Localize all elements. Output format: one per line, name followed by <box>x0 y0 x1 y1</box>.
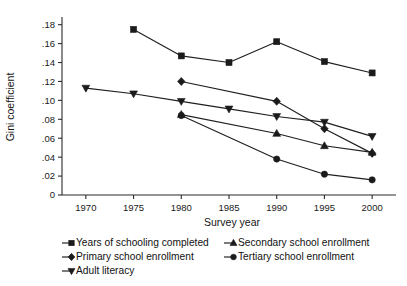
x-axis-title: Survey year <box>204 216 261 228</box>
y-axis-tick-label: .02 <box>42 170 55 181</box>
legend-entry-label: Years of schooling completed <box>76 237 209 248</box>
x-axis: 1970197519801985199019952000 <box>62 195 396 213</box>
legend-entry-1: Secondary school enrollment <box>224 237 370 248</box>
legend-entry-label: Secondary school enrollment <box>238 237 370 248</box>
x-axis-tick-label: 1985 <box>218 202 239 213</box>
data-series-group <box>82 26 376 183</box>
x-axis-tick-label: 1995 <box>314 202 335 213</box>
legend-entry-0: Years of schooling completed <box>62 237 209 248</box>
marker-square <box>226 60 232 66</box>
marker-square <box>321 59 327 65</box>
legend-entry-4: Adult literacy <box>62 265 135 276</box>
y-axis-tick-label: .06 <box>42 133 55 144</box>
legend-entry-3: Tertiary school enrollment <box>224 251 354 262</box>
y-axis-tick-label: .18 <box>42 19 55 30</box>
marker-circle <box>274 156 280 162</box>
marker-circle <box>321 171 327 177</box>
x-axis-tick-label: 1970 <box>75 202 96 213</box>
chart-canvas: 0.02.04.06.08.10.12.14.16.18 19701975198… <box>0 0 407 286</box>
y-axis-tick-label: .16 <box>42 38 55 49</box>
y-axis-tick-label: .08 <box>42 114 55 125</box>
series-4 <box>178 112 375 183</box>
gini-coefficient-line-chart: 0.02.04.06.08.10.12.14.16.18 19701975198… <box>0 0 407 286</box>
chart-legend: Years of schooling completedSecondary sc… <box>62 237 370 276</box>
y-axis-tick-label: .12 <box>42 76 55 87</box>
y-axis-tick-label: .10 <box>42 95 55 106</box>
x-axis-tick-label: 2000 <box>362 202 383 213</box>
x-axis-tick-label: 1990 <box>266 202 287 213</box>
legend-entry-2: Primary school enrollment <box>62 251 194 262</box>
series-polyline <box>134 29 373 73</box>
y-axis-tick-label: .04 <box>42 152 55 163</box>
marker-square <box>178 53 184 59</box>
marker-diamond <box>273 97 281 105</box>
marker-diamond <box>178 77 186 85</box>
marker-square <box>274 39 280 45</box>
marker-square <box>131 26 137 32</box>
series-polyline <box>181 116 372 180</box>
x-axis-tick-label: 1975 <box>123 202 144 213</box>
y-axis: 0.02.04.06.08.10.12.14.16.18 <box>42 17 62 200</box>
marker-triangle-down <box>368 133 376 140</box>
marker-square <box>369 70 375 76</box>
marker-diamond <box>68 253 75 260</box>
marker-circle <box>369 177 375 183</box>
y-axis-title: Gini coefficient <box>4 73 16 142</box>
x-axis-tick-label: 1980 <box>171 202 192 213</box>
y-axis-tick-label: 0 <box>50 189 55 200</box>
marker-circle <box>231 254 237 260</box>
y-axis-tick-label: .14 <box>42 57 55 68</box>
legend-entry-label: Primary school enrollment <box>76 251 194 262</box>
marker-square <box>69 240 74 245</box>
marker-circle <box>178 112 184 118</box>
series-0 <box>131 26 376 76</box>
legend-entry-label: Adult literacy <box>76 265 135 276</box>
legend-entry-label: Tertiary school enrollment <box>238 251 354 262</box>
